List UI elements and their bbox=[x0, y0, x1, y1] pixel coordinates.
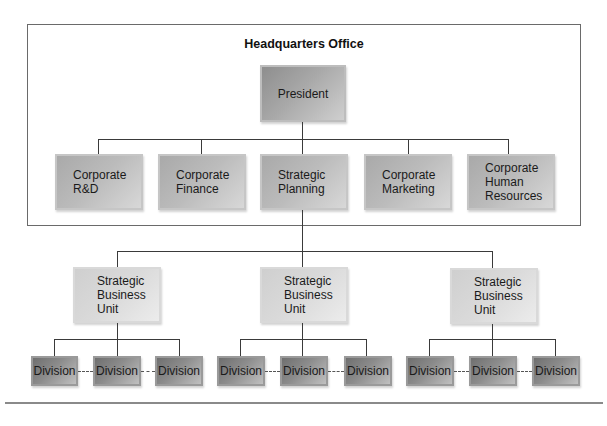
connector-sbu-bar bbox=[117, 251, 493, 252]
division-box-2-3: Division bbox=[344, 356, 392, 386]
division-box-2-2: Division bbox=[280, 356, 328, 386]
staff-box-corporate-finance: Corporate Finance bbox=[158, 154, 246, 210]
division-dashed-link bbox=[328, 371, 344, 372]
connector-staff-bar bbox=[98, 139, 508, 140]
sbu-box-3: Strategic Business Unit bbox=[450, 268, 538, 324]
connector-president-down bbox=[302, 122, 303, 140]
division-label: Division bbox=[96, 364, 138, 378]
division-label: Division bbox=[535, 364, 577, 378]
division-label: Division bbox=[158, 364, 200, 378]
connector-staff-1 bbox=[98, 139, 99, 154]
staff-label-line: Corporate bbox=[73, 168, 126, 182]
division-box-2-1: Division bbox=[217, 356, 265, 386]
connector-div-bar-1 bbox=[54, 339, 180, 340]
division-label: Division bbox=[472, 364, 514, 378]
staff-label-line: Finance bbox=[176, 182, 229, 196]
division-dashed-link bbox=[517, 371, 532, 372]
staff-label-line: Strategic bbox=[278, 168, 325, 182]
sbu-label-line: Strategic bbox=[97, 274, 146, 288]
division-label: Division bbox=[409, 364, 451, 378]
division-box-1-1: Division bbox=[31, 356, 78, 386]
division-label: Division bbox=[347, 364, 389, 378]
division-box-1-3: Division bbox=[155, 356, 203, 386]
division-box-3-2: Division bbox=[469, 356, 517, 386]
connector-div-2a bbox=[240, 339, 241, 356]
connector-sbu-1 bbox=[117, 251, 118, 267]
staff-label-line: R&D bbox=[73, 182, 126, 196]
connector-staff-3 bbox=[302, 139, 303, 154]
division-label: Division bbox=[33, 364, 75, 378]
staff-box-corporate-hr: Corporate Human Resources bbox=[467, 154, 555, 210]
sbu-label-line: Business bbox=[284, 288, 333, 302]
president-label: President bbox=[278, 87, 329, 101]
division-label: Division bbox=[283, 364, 325, 378]
connector-staff-2 bbox=[201, 139, 202, 154]
division-dashed-link bbox=[265, 371, 280, 372]
connector-div-3a bbox=[429, 339, 430, 356]
division-label: Division bbox=[220, 364, 262, 378]
connector-sbu-3 bbox=[492, 251, 493, 268]
connector-staff-5 bbox=[508, 139, 509, 154]
division-dashed-link bbox=[141, 371, 155, 372]
division-dashed-link bbox=[78, 371, 93, 372]
connector-div-1c bbox=[179, 339, 180, 356]
staff-label-line: Marketing bbox=[382, 182, 435, 196]
connector-div-2c bbox=[366, 339, 367, 356]
staff-label-line: Corporate bbox=[176, 168, 229, 182]
staff-label-line: Corporate bbox=[382, 168, 435, 182]
sbu-label-line: Business bbox=[97, 288, 146, 302]
connector-div-1a bbox=[54, 339, 55, 356]
staff-label-line: Corporate bbox=[485, 161, 542, 175]
staff-label-line: Resources bbox=[485, 189, 542, 203]
staff-label-line: Planning bbox=[278, 182, 325, 196]
connector-staff-4 bbox=[408, 139, 409, 154]
sbu-box-1: Strategic Business Unit bbox=[73, 267, 161, 323]
staff-box-strategic-planning: Strategic Planning bbox=[260, 154, 348, 210]
division-dashed-link bbox=[454, 371, 469, 372]
sbu-label-line: Unit bbox=[284, 302, 333, 316]
division-box-3-1: Division bbox=[406, 356, 454, 386]
sbu-label-line: Strategic bbox=[474, 275, 523, 289]
connector-trunk bbox=[302, 210, 303, 267]
connector-div-3c bbox=[555, 339, 556, 356]
sbu-label-line: Unit bbox=[97, 302, 146, 316]
headquarters-title: Headquarters Office bbox=[27, 37, 581, 51]
sbu-label-line: Strategic bbox=[284, 274, 333, 288]
connector-div-bar-3 bbox=[429, 339, 556, 340]
staff-label-line: Human bbox=[485, 175, 542, 189]
connector-sbu3-down bbox=[492, 324, 493, 356]
division-box-1-2: Division bbox=[93, 356, 141, 386]
sbu-label-line: Unit bbox=[474, 303, 523, 317]
connector-div-bar-2 bbox=[240, 339, 367, 340]
president-box: President bbox=[260, 65, 346, 122]
sbu-label-line: Business bbox=[474, 289, 523, 303]
division-box-3-3: Division bbox=[532, 356, 580, 386]
bottom-divider bbox=[5, 402, 603, 404]
staff-box-corporate-rd: Corporate R&D bbox=[55, 154, 143, 210]
staff-box-corporate-marketing: Corporate Marketing bbox=[364, 154, 452, 210]
sbu-box-2: Strategic Business Unit bbox=[260, 267, 348, 323]
